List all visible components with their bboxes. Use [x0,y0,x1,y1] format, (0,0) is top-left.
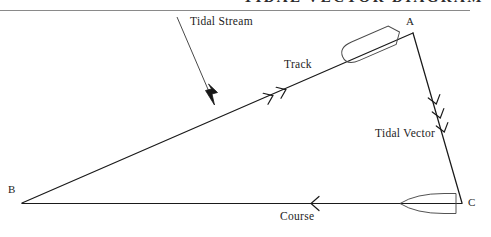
annotation-label-tidal-stream: Tidal Stream [190,16,253,28]
tidal-vector-diagram [0,0,491,237]
vertex-label-a: A [406,16,414,27]
diagram-page: TIDAL VECTOR DIAGRAM [0,0,491,237]
track-direction-chevrons [263,84,288,104]
edge-label-tidal-vector: Tidal Vector [375,128,435,140]
edge-label-track: Track [284,59,312,71]
edge-label-course: Course [280,211,314,223]
track-line [22,33,413,203]
boat-hull-track-icon [339,23,404,66]
tidal-vector-line [413,33,462,203]
tidal-stream-arrow [177,17,218,105]
vertex-label-c: C [468,197,476,208]
vertex-label-b: B [8,184,16,195]
